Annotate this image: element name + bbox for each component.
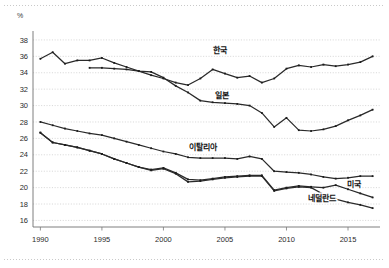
data-point-marker [138,166,140,168]
x-tick-label: 1990 [32,235,49,244]
data-point-marker [261,158,263,160]
series-line-일본 [90,68,373,131]
y-tick-label: 28 [20,118,28,127]
data-point-marker [187,179,189,181]
data-point-marker [224,102,226,104]
data-point-marker [89,67,91,69]
data-point-marker [150,71,152,73]
data-point-marker [76,60,78,62]
data-point-marker [64,144,66,146]
data-point-marker [150,74,152,76]
data-point-marker [310,130,312,132]
data-point-marker [335,178,337,180]
y-tick-label: 24 [20,150,28,159]
y-tick-labels-group: 161820222426283032343638 [20,36,28,226]
data-point-marker [52,124,54,126]
data-point-marker [323,176,325,178]
data-point-marker [212,179,214,181]
data-point-marker [163,77,165,79]
series-label-이탈리아: 이탈리아 [189,142,218,152]
data-point-marker [101,153,103,155]
data-point-marker [261,112,263,114]
data-point-marker [347,119,349,121]
data-point-marker [236,103,238,105]
data-point-marker [199,180,201,182]
data-point-marker [224,157,226,159]
data-point-marker [224,73,226,75]
data-point-marker [212,69,214,71]
data-point-marker [347,177,349,179]
data-point-marker [52,142,54,144]
data-point-marker [175,82,177,84]
data-point-marker [52,51,54,53]
data-point-marker [150,147,152,149]
data-point-marker [224,177,226,179]
series-label-네덜란드: 네덜란드 [308,193,337,203]
y-tick-label: 34 [20,68,28,77]
data-point-marker [187,92,189,94]
data-point-marker [273,190,275,192]
y-tick-label: 26 [20,134,28,143]
data-point-marker [163,168,165,170]
data-point-marker [335,125,337,127]
data-point-marker [199,78,201,80]
data-point-marker [138,144,140,146]
data-point-marker [249,175,251,177]
x-tick-label: 2000 [155,235,172,244]
x-tick-label: 2015 [340,235,357,244]
x-tick-labels-group: 199019952000200520102015 [32,235,356,244]
data-point-marker [101,67,103,69]
data-point-marker [89,150,91,152]
data-point-marker [359,192,361,194]
data-point-marker [359,61,361,63]
data-point-marker [249,156,251,158]
data-point-marker [199,157,201,159]
data-point-marker [310,174,312,176]
data-point-marker [89,60,91,62]
data-point-marker [113,68,115,70]
data-point-marker [150,169,152,171]
data-point-marker [126,69,128,71]
data-point-marker [298,186,300,188]
series-label-한국: 한국 [213,45,228,55]
data-point-marker [187,156,189,158]
data-point-marker [236,176,238,178]
data-point-marker [298,172,300,174]
data-point-marker [126,141,128,143]
data-point-marker [113,137,115,139]
data-point-marker [335,184,337,186]
data-point-marker [298,64,300,66]
data-point-marker [89,133,91,135]
data-point-marker [126,162,128,164]
data-point-marker [236,77,238,79]
line-chart-plot: 161820222426283032343638 199019952000200… [0,0,389,268]
data-point-marker [113,62,115,64]
data-point-marker [199,100,201,102]
data-point-marker [323,128,325,130]
data-point-marker [39,121,41,123]
x-tick-label: 2010 [278,235,295,244]
data-point-marker [273,126,275,128]
y-tick-label: 18 [20,200,28,209]
data-point-marker [310,187,312,189]
data-point-marker [39,58,41,60]
data-point-marker [359,204,361,206]
data-point-marker [372,175,374,177]
data-point-marker [286,188,288,190]
data-point-marker [286,117,288,119]
data-point-marker [286,68,288,70]
data-point-marker [113,158,115,160]
x-tick-label: 1995 [94,235,111,244]
y-tick-label: 38 [20,36,28,45]
data-point-marker [359,175,361,177]
series-label-일본: 일본 [215,90,230,100]
y-tick-label: 30 [20,101,28,110]
data-point-marker [39,132,41,134]
data-point-marker [101,134,103,136]
data-point-marker [359,115,361,117]
data-point-marker [286,171,288,173]
data-point-marker [273,170,275,172]
y-tick-label: 20 [20,183,28,192]
data-point-marker [126,66,128,68]
y-tick-label: 36 [20,52,28,61]
